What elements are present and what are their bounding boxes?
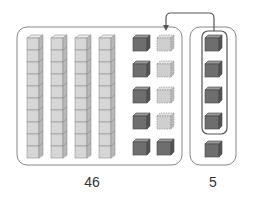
left-group-label: 46	[77, 174, 107, 190]
tens-rods	[27, 35, 115, 158]
right-group-label: 5	[203, 174, 223, 190]
base-ten-diagram	[0, 0, 254, 200]
left-ones	[133, 35, 174, 155]
right-ones	[205, 35, 222, 157]
regroup-arrow	[166, 13, 214, 31]
